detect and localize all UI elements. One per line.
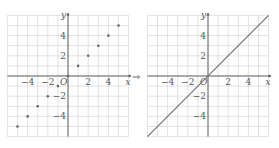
x-tick-label: 4 <box>106 77 112 87</box>
diagram-canvas: xyO−4−22442−2−4 ⇒ xyO−4−22442−2−4 <box>0 0 279 148</box>
x-tick-label: −2 <box>181 77 194 87</box>
y-axis-arrow-icon <box>67 12 70 15</box>
scatter-plot-left: xyO−4−22442−2−4 <box>7 10 131 136</box>
data-point <box>26 115 29 118</box>
x-tick-label: −2 <box>41 77 54 87</box>
x-tick-label: −4 <box>161 77 175 87</box>
x-tick-label: 2 <box>85 77 91 87</box>
x-axis-label: x <box>266 77 271 87</box>
data-point <box>117 24 120 27</box>
y-tick-label: 4 <box>60 31 66 41</box>
data-point <box>107 34 110 37</box>
y-axis-label: y <box>200 10 207 20</box>
y-tick-label: 4 <box>200 31 206 41</box>
origin-label: O <box>60 77 68 87</box>
y-axis-label: y <box>60 10 67 20</box>
y-tick-label: 2 <box>60 51 66 61</box>
line-plot-right: xyO−4−22442−2−4 <box>147 10 271 136</box>
y-tick-label: −4 <box>53 111 67 121</box>
x-tick-label: 4 <box>246 77 252 87</box>
data-point <box>47 95 50 98</box>
data-point <box>36 105 39 108</box>
data-point <box>67 75 70 78</box>
data-point <box>97 44 100 47</box>
implies-arrow-icon: ⇒ <box>132 71 140 82</box>
y-tick-label: −2 <box>53 91 66 101</box>
y-tick-label: −2 <box>193 91 206 101</box>
x-tick-label: −4 <box>21 77 35 87</box>
y-axis-arrow-icon <box>207 12 210 15</box>
data-point <box>57 85 60 88</box>
data-point <box>87 55 90 58</box>
data-point <box>77 65 80 68</box>
data-point <box>16 125 19 128</box>
x-tick-label: 2 <box>225 77 231 87</box>
x-axis-label: x <box>126 77 131 87</box>
y-tick-label: −4 <box>193 111 207 121</box>
y-tick-label: 2 <box>200 51 206 61</box>
